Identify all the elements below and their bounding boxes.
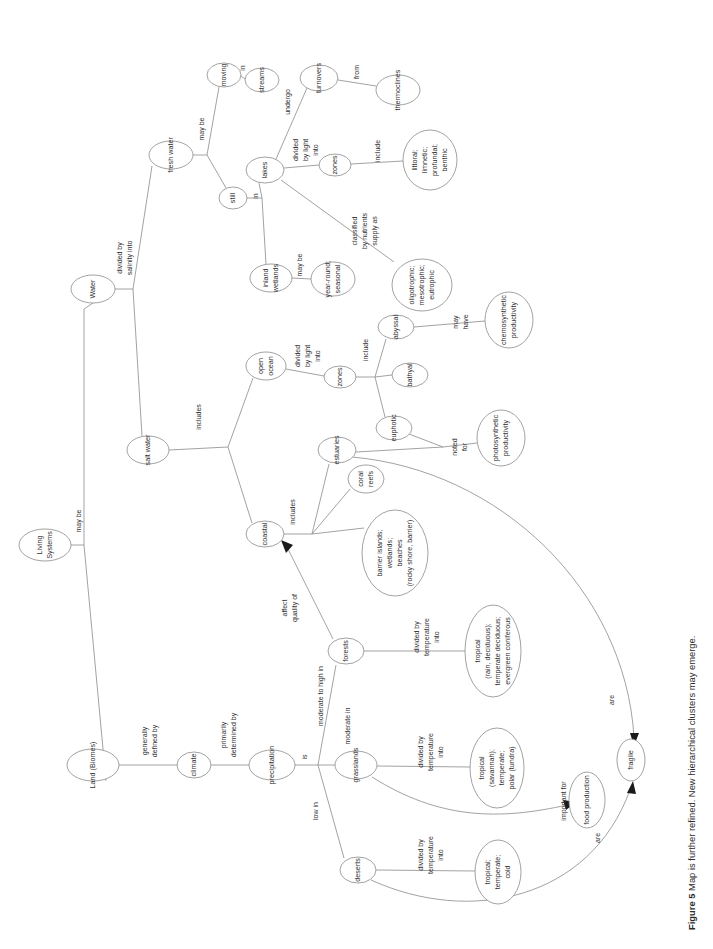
node-label: Living [35,536,44,555]
edge-label-divided-by-salinity-2: salinity into [126,241,134,276]
link-oceanzones-to-euphotic [375,377,385,417]
node-label: climate [189,754,198,777]
node-label: temperate deciduous; [493,616,502,685]
node-label: still [228,192,237,203]
edge-label-divtemp-grass-1: divided by [417,736,425,768]
node-lake-zones[interactable]: zones [319,154,351,176]
edge-label-from: from [353,65,360,79]
link-deserts-to-types [376,870,475,871]
node-lake-zone-list[interactable]: littoral; limnetic; profundal; benthic [403,130,457,190]
node-photosynthetic-productivity[interactable]: photosynthetic productivity [477,410,525,466]
node-abyssal[interactable]: abyssal [378,314,414,339]
node-streams[interactable]: streams [245,67,279,93]
node-precipitation[interactable]: precipitation [249,746,295,785]
node-open-ocean[interactable]: open ocean [246,352,286,380]
link-water-to-salt [133,289,142,436]
node-label: abyssal [391,314,400,339]
edge-label-in-still: in [252,193,259,199]
node-ocean-zones[interactable]: zones [324,366,356,388]
edge-label-include-ocean-zones: include [362,339,369,361]
node-coastal[interactable]: coastal [246,521,284,547]
node-fragile[interactable]: fragile [617,739,645,781]
node-year-round-seasonal[interactable]: year-round; seasonal [311,261,355,298]
node-bathyal[interactable]: bathyal [392,363,428,387]
link-oceanzones-to-bathyal [375,375,392,377]
figure-label: Figure 5 [686,894,697,930]
arrowhead-forests-coastal [281,540,293,553]
node-label: wetlands; [385,538,394,569]
node-inland-wetlands[interactable]: inland wetlands [250,263,292,293]
node-euphotic[interactable]: euphotic [376,414,412,442]
node-label: productivity [509,301,518,338]
node-label: tropical; [483,859,492,884]
node-land-biomes[interactable]: Land (Biomes) [67,742,119,789]
edge-label-generally-defined-1: generally [141,726,149,755]
node-label: polar (tundra) [507,746,516,789]
node-label: chemosynthetic [499,295,508,345]
node-label: estuaries [332,435,341,465]
node-label: tropical [473,639,482,663]
node-living-systems[interactable]: Living Systems [19,529,71,561]
node-moving[interactable]: moving [207,63,241,87]
edge-label-divtemp-forests-1: divided by [413,621,421,653]
edge-label-layer: may be divided by salinity into may be i… [75,65,615,874]
node-layer: Living Systems Water Land (Biomes) [19,63,645,904]
link-salt-stub [169,447,228,450]
edge-label-in-moving: in [239,65,246,71]
node-label: wetlands [271,263,280,293]
link-moving-to-streams [241,76,245,79]
node-lakes[interactable]: lakes [246,157,284,183]
node-still[interactable]: still [219,187,247,209]
edge-label-classified-3: supply as [371,216,379,246]
node-salt-water[interactable]: salt water [127,434,169,465]
edge-label-divtemp-forests-3: into [433,631,440,642]
edge-label-affect-quality-2: quality of [291,594,299,622]
edge-label-may-have-1: may [452,315,460,329]
node-label: limnetic; [420,147,429,173]
node-grassland-types[interactable]: tropical (savannah); temperate; polar (t… [470,728,524,808]
edge-label-divided-by-salinity: divided by [116,242,124,274]
link-oceanzones-to-abyssal [375,339,386,377]
edge-label-may-be-wetlands: may be [296,253,304,276]
edge-label-are-deserts: are [594,833,601,843]
node-climate[interactable]: climate [177,752,211,778]
node-label: temperate; [493,855,502,889]
node-label: deserts [353,858,362,882]
node-desert-types[interactable]: tropical; temperate; cold [475,840,521,904]
edge-label-primarily-determined-2: determined by [230,712,238,757]
edge-label-classified-2: by nutrients [361,212,369,249]
edge-label-important-for: important for [560,781,568,821]
node-fresh-water[interactable]: fresh water [149,137,193,173]
node-trophic-list[interactable]: oligotrophic; mesotrophic; eutrophic [392,259,452,311]
node-barrier-islands-list[interactable]: barrier islands; wetlands; beaches (rock… [362,510,428,596]
node-water[interactable]: Water [71,275,115,303]
link-fresh-to-moving [207,87,219,155]
node-forest-types[interactable]: tropical (rain, deciduous); temperate de… [465,605,521,697]
figure-caption: Figure 5 Map is further refined. New hie… [686,570,698,930]
link-turnovers-to-thermoclines [338,80,376,86]
edge-label-generally-defined-2: defined by [151,724,159,757]
edge-label-divided-light-lakes-3: into [312,144,319,155]
node-label: lakes [260,161,269,178]
node-coral-reefs[interactable]: coral reefs [348,465,384,493]
edge-label-divtemp-desert-3: into [437,849,444,860]
node-label: year-round; [323,261,332,298]
node-food-production[interactable]: food production [569,772,605,828]
link-coastal-to-barrier [312,528,364,534]
edge-label-divided-light-lakes-1: divided [292,139,299,161]
edge-label-noted-for-2: for [461,442,468,451]
node-estuaries[interactable]: estuaries [318,435,356,465]
node-label: productivity [501,419,510,456]
edge-label-are-estuaries: are [608,695,615,705]
edge-label-includes-salt: includes [195,404,202,430]
edge-label-is: is [301,754,308,760]
node-forests[interactable]: forests [328,638,364,664]
node-chemosynthetic-productivity[interactable]: chemosynthetic productivity [485,292,533,348]
node-grasslands[interactable]: grasslands [335,747,377,782]
node-turnovers[interactable]: turnovers [300,63,338,93]
node-deserts[interactable]: deserts [340,857,376,883]
node-label: turnovers [314,63,323,93]
node-thermoclines[interactable]: thermoclines [376,69,420,110]
node-label: benthic [440,148,449,172]
edge-label-divtemp-desert-2: temperature [427,836,435,874]
